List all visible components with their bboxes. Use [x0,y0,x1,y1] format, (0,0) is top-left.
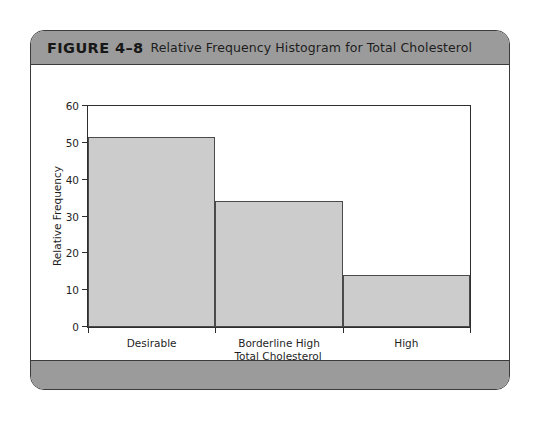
y-axis-tick [82,216,88,217]
y-axis-tick [82,142,88,143]
x-axis-tick [470,327,471,333]
x-axis-category-label: Desirable [127,337,177,349]
y-axis-title-label: Relative Frequency [51,166,63,266]
figure-caption: Relative Frequency Histogram for Total C… [151,40,473,55]
y-axis-tick [82,105,88,106]
y-axis-tick-label: 30 [66,211,79,223]
y-axis-tick [82,179,88,180]
x-axis-category-label: High [394,337,418,349]
bars-group [88,106,470,327]
histogram-bar [215,201,342,327]
y-axis-tick-label: 0 [72,321,79,333]
figure-footer [31,360,509,389]
x-axis-tick [215,327,216,333]
figure-header: FIGURE 4–8 Relative Frequency Histogram … [31,31,509,65]
y-axis-title: Relative Frequency [49,105,65,326]
y-axis-tick-label: 20 [66,247,79,259]
plot-area: 0102030405060DesirableBorderline HighHig… [87,105,471,328]
x-axis-tick [88,327,89,333]
y-axis-tick-label: 50 [66,137,79,149]
y-axis-tick [82,289,88,290]
histogram-bar [343,275,470,327]
y-axis-tick [82,252,88,253]
x-axis-category-label: Borderline High [238,337,320,349]
figure-box: FIGURE 4–8 Relative Frequency Histogram … [30,30,510,390]
histogram-chart: Relative Frequency 0102030405060Desirabl… [31,65,509,363]
histogram-bar [88,137,215,327]
x-axis-tick [343,327,344,333]
y-axis-tick-label: 60 [66,100,79,112]
figure-number: FIGURE 4–8 [47,40,144,56]
y-axis-tick-label: 40 [66,174,79,186]
y-axis-tick-label: 10 [66,284,79,296]
